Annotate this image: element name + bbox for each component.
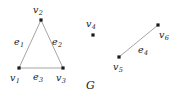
edge-label-e1: e1 xyxy=(14,37,24,47)
edge-label-subscript: 4 xyxy=(144,49,148,57)
vertex-label-subscript: 5 xyxy=(119,66,123,74)
graph-caption-label: G xyxy=(86,80,95,91)
vertex-label-subscript: 4 xyxy=(92,23,96,31)
vertex-label-base: v xyxy=(86,18,91,29)
graph-diagram: e1e2e3e4v1v2v3v4v5v6 G xyxy=(0,0,181,99)
vertex-label-v3: v3 xyxy=(56,73,66,83)
vertex-dot-v6 xyxy=(156,23,159,26)
vertex-label-base: v xyxy=(56,72,61,83)
vertex-dot-v3 xyxy=(61,66,64,69)
vertex-label-subscript: 2 xyxy=(39,9,43,17)
edge-label-subscript: 3 xyxy=(39,76,43,84)
vertex-dot-v2 xyxy=(39,18,42,21)
vertex-label-v1: v1 xyxy=(10,73,20,83)
vertex-label-subscript: 1 xyxy=(16,77,20,85)
vertex-label-v5: v5 xyxy=(113,62,123,72)
vertex-label-base: v xyxy=(10,72,15,83)
edge-label-base: e xyxy=(14,36,20,47)
vertex-label-subscript: 3 xyxy=(62,77,66,85)
vertex-label-base: v xyxy=(33,4,38,15)
vertex-label-base: v xyxy=(159,29,164,40)
edge-label-subscript: 1 xyxy=(20,41,24,49)
edge-label-e2: e2 xyxy=(52,37,62,47)
vertex-dot-v1 xyxy=(17,66,20,69)
edge-label-base: e xyxy=(138,44,144,55)
edge-label-e3: e3 xyxy=(33,72,43,82)
edge-label-e4: e4 xyxy=(138,45,148,55)
vertex-dot-v4 xyxy=(91,33,94,36)
vertex-label-subscript: 6 xyxy=(165,34,169,42)
edge-label-base: e xyxy=(33,71,39,82)
vertex-dot-v5 xyxy=(117,55,120,58)
vertex-label-v4: v4 xyxy=(86,19,96,29)
edge-label-base: e xyxy=(52,36,58,47)
vertex-label-base: v xyxy=(113,61,118,72)
vertex-label-v6: v6 xyxy=(159,30,169,40)
vertex-label-v2: v2 xyxy=(33,5,43,15)
edge-label-subscript: 2 xyxy=(58,41,62,49)
